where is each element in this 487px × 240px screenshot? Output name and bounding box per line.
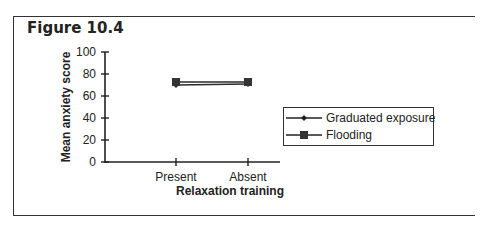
x-tick-label: Absent — [229, 170, 267, 184]
y-tick-label: 80 — [83, 67, 97, 81]
legend-item-graduated-exposure: Graduated exposure — [284, 110, 435, 126]
chart-legend: Graduated exposure Flooding — [283, 107, 434, 146]
legend-label: Graduated exposure — [326, 111, 435, 125]
x-axis-title: Relaxation training — [176, 184, 284, 198]
square-marker-icon — [286, 127, 322, 143]
y-tick-label: 100 — [76, 45, 96, 59]
diamond-marker-icon — [286, 110, 322, 126]
y-axis-title: Mean anxiety score — [59, 51, 73, 162]
legend-label: Flooding — [326, 128, 372, 142]
y-tick-label: 60 — [83, 89, 97, 103]
y-tick-label: 20 — [83, 133, 97, 147]
y-tick-label: 40 — [83, 111, 97, 125]
legend-item-flooding: Flooding — [284, 127, 372, 143]
x-tick-label: Present — [155, 170, 197, 184]
y-tick-label: 0 — [89, 155, 96, 169]
